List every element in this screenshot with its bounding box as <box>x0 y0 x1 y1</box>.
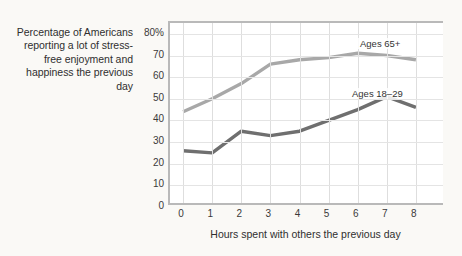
x-axis-tick-label: 7 <box>375 208 395 219</box>
gridline-vertical <box>416 23 417 205</box>
gridline-vertical <box>270 23 271 205</box>
gridline-horizontal <box>170 77 443 78</box>
gridline-vertical <box>358 23 359 205</box>
chart-caption: Percentage of Americans reporting a lot … <box>8 26 133 93</box>
y-axis-tick-label: 30 <box>128 135 164 146</box>
series-label-ages-65-plus: Ages 65+ <box>358 38 402 49</box>
x-axis-tick-label: 2 <box>229 208 249 219</box>
gridline-vertical <box>212 23 213 205</box>
gridline-vertical <box>387 23 388 205</box>
x-axis-tick-label: 6 <box>346 208 366 219</box>
y-axis-tick-label: 50 <box>128 91 164 102</box>
gridline-horizontal <box>170 185 443 186</box>
gridline-horizontal <box>170 34 443 35</box>
gridline-vertical <box>329 23 330 205</box>
x-axis-tick-label: 4 <box>288 208 308 219</box>
x-axis-tick-label: 1 <box>200 208 220 219</box>
y-axis-tick-label: 80% <box>128 26 164 37</box>
gridline-horizontal <box>170 164 443 165</box>
chart-page: Percentage of Americans reporting a lot … <box>0 0 462 256</box>
y-axis-tick-label: 40 <box>128 113 164 124</box>
gridline-horizontal <box>170 56 443 57</box>
y-axis-tick-label: 0 <box>128 200 164 211</box>
x-axis-baseline <box>170 203 443 205</box>
x-axis: 012345678 <box>168 208 443 224</box>
series-lines <box>170 23 443 205</box>
x-axis-tick-label: 3 <box>258 208 278 219</box>
plot-inner <box>170 23 443 205</box>
gridline-horizontal <box>170 142 443 143</box>
x-axis-tick-label: 8 <box>404 208 424 219</box>
gridline-vertical <box>300 23 301 205</box>
gridline-vertical <box>183 23 184 205</box>
x-axis-tick-label: 5 <box>317 208 337 219</box>
y-axis-tick-label: 70 <box>128 48 164 59</box>
y-axis-tick-label: 20 <box>128 156 164 167</box>
y-axis: 01020304050607080% <box>126 21 164 205</box>
gridline-vertical <box>241 23 242 205</box>
series-label-ages-18-29: Ages 18–29 <box>350 88 405 99</box>
y-axis-tick-label: 60 <box>128 70 164 81</box>
gridline-horizontal <box>170 120 443 121</box>
x-axis-tick-label: 0 <box>171 208 191 219</box>
x-axis-title: Hours spent with others the previous day <box>168 228 443 240</box>
y-axis-tick-label: 10 <box>128 178 164 189</box>
